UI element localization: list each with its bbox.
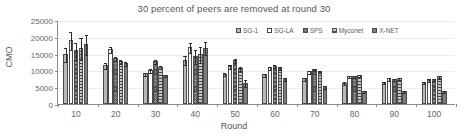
- x-tick-label: 90: [390, 109, 399, 119]
- y-axis-label: CMO: [4, 35, 14, 79]
- legend-swatch-icon: [372, 28, 377, 33]
- error-bar-cap: [422, 84, 425, 85]
- y-tick-label: 20000: [31, 33, 58, 42]
- x-tick-mark: [456, 104, 457, 107]
- error-bar: [200, 47, 201, 63]
- error-bar-cap: [85, 55, 88, 56]
- legend-item-sg-1: SG-1: [236, 27, 258, 34]
- error-bar-cap: [403, 93, 406, 94]
- bar-sg-1: [262, 74, 267, 104]
- bar-sg-la: [228, 66, 233, 104]
- error-bar-cap: [303, 81, 306, 82]
- x-tick-mark: [58, 104, 59, 107]
- x-tick-mark: [138, 104, 139, 107]
- legend-item-myconet: Myconet: [332, 27, 364, 34]
- legend-swatch-icon: [267, 28, 272, 33]
- error-bar-cap: [204, 42, 207, 43]
- error-bar-cap: [268, 70, 271, 71]
- legend-label: X-NET: [379, 27, 399, 34]
- bar-sg-1: [103, 65, 108, 104]
- legend-item-sps: SPS: [303, 27, 323, 34]
- error-bar-cap: [223, 76, 226, 77]
- error-bar-cap: [144, 76, 147, 77]
- error-bar-cap: [284, 81, 287, 82]
- error-bar-cap: [273, 65, 276, 66]
- bar-sg-1: [302, 78, 307, 104]
- error-bar-cap: [382, 82, 385, 83]
- bar-sps: [153, 61, 158, 104]
- error-bar-cap: [427, 79, 430, 80]
- error-bar-cap: [303, 78, 306, 79]
- error-bar-cap: [194, 64, 197, 65]
- error-bar-cap: [308, 74, 311, 75]
- error-bar-cap: [422, 82, 425, 83]
- x-tick-mark: [416, 104, 417, 107]
- x-tick-mark: [177, 104, 178, 107]
- x-tick-mark: [98, 104, 99, 107]
- bar-myconet: [357, 75, 362, 104]
- error-bar-cap: [194, 50, 197, 51]
- error-bar-cap: [323, 89, 326, 90]
- error-bar-cap: [239, 67, 242, 68]
- x-tick-label: 70: [310, 109, 319, 119]
- error-bar-cap: [109, 47, 112, 48]
- error-bar-cap: [278, 67, 281, 68]
- error-bar-cap: [144, 73, 147, 74]
- error-bar-cap: [318, 71, 321, 72]
- error-bar-cap: [443, 91, 446, 92]
- error-bar-cap: [348, 78, 351, 79]
- error-bar-cap: [358, 75, 361, 76]
- bar-group: [143, 21, 168, 104]
- legend-label: SPS: [310, 27, 323, 34]
- x-tick-mark: [257, 104, 258, 107]
- x-tick-mark: [337, 104, 338, 107]
- error-bar-cap: [228, 65, 231, 66]
- error-bar-cap: [154, 60, 157, 61]
- error-bar-cap: [189, 53, 192, 54]
- error-bar-cap: [363, 93, 366, 94]
- bar-chart: 30 percent of peers are removed at round…: [0, 0, 468, 138]
- y-tick-label: 10000: [31, 67, 58, 76]
- x-tick-mark: [217, 104, 218, 107]
- error-bar-cap: [382, 84, 385, 85]
- error-bar-cap: [234, 59, 237, 60]
- x-tick-label: 50: [230, 109, 239, 119]
- bar-sg-la: [387, 78, 392, 104]
- bar-myconet: [119, 61, 124, 104]
- error-bar-cap: [164, 75, 167, 76]
- error-bar-cap: [234, 63, 237, 64]
- x-tick-label: 60: [270, 109, 279, 119]
- bar-sg-la: [427, 80, 432, 104]
- bar-myconet: [437, 76, 442, 104]
- bar-x-net: [283, 78, 288, 104]
- x-tick-label: 80: [350, 109, 359, 119]
- bar-sps: [273, 66, 278, 104]
- x-tick-label: 40: [191, 109, 200, 119]
- error-bar-cap: [427, 82, 430, 83]
- x-tick-label: 10: [71, 109, 80, 119]
- chart-legend: SG-1SG-LASPSMyconetX-NET: [236, 27, 399, 34]
- y-tick-label: 25000: [31, 17, 58, 26]
- error-bar-cap: [204, 55, 207, 56]
- legend-swatch-icon: [332, 28, 337, 33]
- error-bar-cap: [433, 79, 436, 80]
- error-bar-cap: [149, 69, 152, 70]
- error-bar-cap: [343, 85, 346, 86]
- legend-item-sg-la: SG-LA: [267, 27, 294, 34]
- bar-myconet: [318, 71, 323, 104]
- legend-label: SG-LA: [274, 27, 294, 34]
- error-bar-cap: [353, 78, 356, 79]
- bar-sg-1: [143, 73, 148, 104]
- bar-group: [63, 21, 88, 104]
- error-bar-cap: [353, 76, 356, 77]
- error-bar-cap: [79, 59, 82, 60]
- error-bar-cap: [124, 62, 127, 63]
- error-bar: [205, 42, 206, 55]
- error-bar-cap: [244, 80, 247, 81]
- legend-label: Myconet: [339, 27, 364, 34]
- error-bar-cap: [74, 60, 77, 61]
- error-bar-cap: [388, 81, 391, 82]
- error-bar-cap: [109, 53, 112, 54]
- error-bar-cap: [159, 69, 162, 70]
- chart-title: 30 percent of peers are removed at round…: [0, 3, 468, 14]
